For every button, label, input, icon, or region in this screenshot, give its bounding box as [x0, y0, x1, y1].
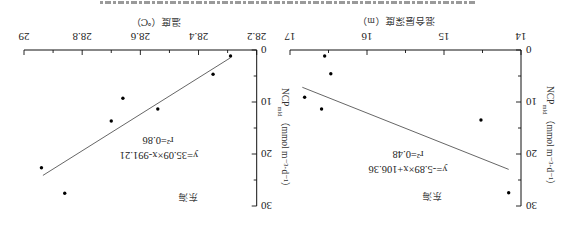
data-point — [110, 119, 113, 122]
data-point — [320, 107, 323, 110]
data-point — [40, 166, 43, 169]
y-axis-title-units: （mmol m⁻³·d⁻¹） — [545, 115, 556, 191]
region-label: 东海 — [178, 192, 198, 203]
x-axis-title: 混合层深度（m） — [357, 16, 434, 27]
panel-mixed-layer-depth: 141516170102030 混合层深度（m） NCPmld（mmol m⁻³… — [284, 16, 556, 212]
x-tick-label: 29 — [18, 31, 30, 43]
x-tick-label: 14 — [515, 31, 527, 43]
region-label: 东海 — [422, 191, 442, 202]
x-tick-label: 28.8 — [72, 31, 92, 43]
fit-equation: y=35.09×x-991.21 — [120, 150, 198, 161]
data-point — [507, 191, 510, 194]
y-axis-title: NCPmld（mmol m⁻³·d⁻¹） — [543, 86, 557, 190]
x-tick-label: 16 — [361, 31, 373, 43]
y-axis-title-units: （mmol m⁻³·d⁻¹） — [280, 117, 291, 193]
data-point — [323, 54, 326, 57]
y-tick-label: 10 — [261, 96, 273, 108]
y-axis-title: NCPmld（mmol m⁻³·d⁻¹） — [278, 88, 292, 192]
y-tick-label: 0 — [526, 44, 532, 56]
plot-area-mld: 141516170102030 — [284, 31, 537, 212]
x-tick-label: 28.6 — [130, 31, 150, 43]
r-squared-label: r²=0.48 — [393, 149, 424, 160]
r-squared-label: r²=0.86 — [143, 135, 174, 146]
x-tick-label: 28.4 — [188, 31, 208, 43]
data-point — [479, 118, 482, 121]
data-point — [63, 192, 66, 195]
y-tick-label: 20 — [261, 148, 273, 160]
data-point — [229, 54, 232, 57]
data-point — [303, 96, 306, 99]
panel-temperature: 28.228.428.628.8290102030 温度（℃） NCPmld（m… — [18, 17, 291, 212]
plot-area-temperature: 28.228.428.628.8290102030 — [18, 31, 272, 212]
y-axis-title-main: NCP — [545, 86, 555, 104]
data-point — [211, 73, 214, 76]
y-tick-label: 10 — [526, 96, 538, 108]
data-point — [156, 107, 159, 110]
y-tick-label: 30 — [526, 200, 538, 212]
fit-equation: y=-5.89×x+106.36 — [368, 164, 447, 175]
data-point — [329, 72, 332, 75]
x-axis-title: 温度（℃） — [131, 17, 182, 28]
data-point — [121, 97, 124, 100]
y-tick-label: 30 — [261, 200, 273, 212]
x-tick-label: 28.2 — [247, 31, 266, 43]
x-tick-label: 15 — [438, 31, 450, 43]
y-tick-label: 0 — [261, 44, 267, 56]
x-tick-label: 17 — [284, 31, 296, 43]
figure: 141516170102030 混合层深度（m） NCPmld（mmol m⁻³… — [0, 0, 567, 226]
y-axis-title-main: NCP — [280, 88, 290, 106]
figure-canvas: 141516170102030 混合层深度（m） NCPmld（mmol m⁻³… — [0, 0, 567, 226]
rotated-figure: 141516170102030 混合层深度（m） NCPmld（mmol m⁻³… — [18, 3, 556, 213]
y-tick-label: 20 — [526, 148, 538, 160]
